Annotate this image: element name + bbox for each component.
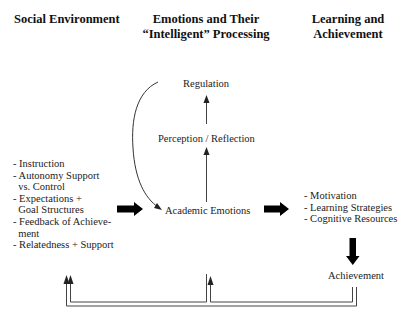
arrow-perception-to-regulation-icon: [204, 95, 210, 124]
diagram-connectors: [0, 0, 406, 318]
block-arrow-social-to-emotions-icon: [117, 202, 143, 216]
feedback-loop-lines: [67, 274, 357, 306]
block-arrow-emotions-to-learning-icon: [264, 202, 289, 216]
feedback-arrowheads-icon: [64, 275, 214, 285]
block-arrow-learning-to-achievement-icon: [346, 238, 360, 265]
arrow-regulation-to-emotions-curve-icon: [133, 82, 162, 210]
arrow-emotions-to-perception-icon: [204, 147, 210, 202]
